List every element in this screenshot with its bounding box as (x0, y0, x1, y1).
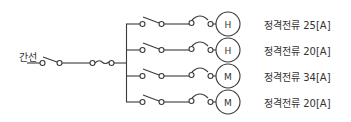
rating-label: 정격전류 (264, 98, 300, 109)
branch-4: M (126, 90, 240, 114)
rating-label: 정격전류 (264, 72, 300, 83)
rating-label: 정격전류 (264, 20, 300, 31)
load-symbol-1: H (225, 20, 232, 30)
load-symbol-4: M (224, 98, 232, 108)
branch-2: H (126, 38, 240, 62)
main-feeder (27, 57, 126, 66)
branch-1-rating: 정격전류 25[A] (264, 17, 331, 32)
branch-2-rating: 정격전류 20[A] (264, 43, 331, 58)
rating-value: 20[A] (303, 98, 330, 109)
branch-1: H (126, 12, 240, 36)
rating-value: 34[A] (303, 72, 330, 83)
branch-3-rating: 정격전류 34[A] (264, 69, 331, 84)
rating-value: 25[A] (303, 20, 330, 31)
branch-4-rating: 정격전류 20[A] (264, 95, 331, 110)
branch-3: M (126, 64, 240, 88)
load-symbol-2: H (225, 46, 232, 56)
rating-value: 20[A] (303, 46, 330, 57)
main-line-label: 간선 (19, 49, 37, 64)
rating-label: 정격전류 (264, 46, 300, 57)
load-symbol-3: M (224, 72, 232, 82)
